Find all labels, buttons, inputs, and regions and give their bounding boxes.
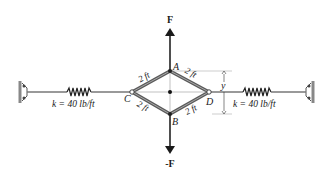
spring-rhombus-diagram: F -F A B C D 2 ft 2 ft 2 ft 2 ft y k = 4…: [0, 0, 332, 182]
joint-d: [207, 90, 211, 94]
node-label-a: A: [172, 61, 180, 72]
right-wall-support: [306, 81, 313, 103]
node-label-c: C: [124, 93, 131, 104]
left-spring-constant-label: k = 40 lb/ft: [52, 99, 95, 109]
force-down-label: -F: [165, 158, 174, 169]
node-label-d: D: [205, 96, 214, 107]
left-wall-support: [20, 81, 27, 103]
force-up-label: F: [167, 14, 173, 25]
right-spring-constant-label: k = 40 lb/ft: [233, 99, 276, 109]
dimension-y-label: y: [220, 80, 226, 91]
center-dot: [168, 90, 172, 94]
left-spring: [27, 88, 132, 96]
node-label-b: B: [172, 116, 178, 127]
